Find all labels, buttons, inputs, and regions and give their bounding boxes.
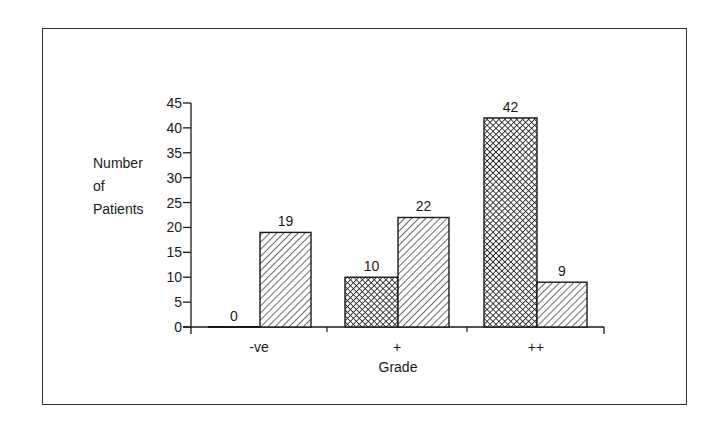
bar-group-2: 429++ [484, 99, 587, 355]
y-tick-label: 35 [166, 145, 182, 161]
bar [537, 282, 587, 327]
bar [345, 277, 398, 327]
x-tick-label: + [393, 339, 401, 355]
bar [398, 217, 449, 327]
y-tick-label: 25 [166, 195, 182, 211]
y-tick-label: 0 [174, 319, 182, 335]
bar-group-0: 019-ve [208, 213, 311, 355]
y-tick-label: 10 [166, 269, 182, 285]
x-tick-label: ++ [528, 339, 544, 355]
bars: 019-ve1022+429++ [208, 99, 587, 355]
y-tick-label: 45 [166, 95, 182, 111]
bar [260, 232, 311, 327]
bar-value-label: 9 [558, 263, 566, 279]
x-axis-title: Grade [379, 359, 418, 375]
bar-value-label: 22 [416, 198, 432, 214]
y-axis: 051015202530354045 [166, 95, 191, 335]
y-tick-label: 5 [174, 294, 182, 310]
bar-value-label: 10 [364, 258, 380, 274]
y-tick-label: 40 [166, 120, 182, 136]
bar-group-1: 1022+ [345, 198, 449, 355]
y-tick-label: 15 [166, 244, 182, 260]
bar-value-label: 0 [230, 308, 238, 324]
bar-chart: 051015202530354045 019-ve1022+429++ Grad… [0, 0, 724, 433]
x-tick-label: -ve [249, 339, 269, 355]
x-axis [183, 327, 604, 334]
bar-value-label: 19 [278, 213, 294, 229]
y-tick-label: 30 [166, 170, 182, 186]
y-tick-label: 20 [166, 219, 182, 235]
bar-value-label: 42 [503, 99, 519, 115]
bar [484, 118, 537, 327]
